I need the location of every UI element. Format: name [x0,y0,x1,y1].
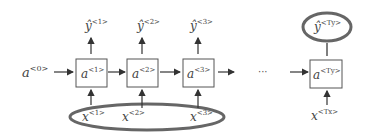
output-yTy: ŷ<Ty> [313,19,341,34]
output-y1: ŷ<1> [84,18,108,33]
ellipsis: ··· [258,66,268,77]
input-x1: x<1> [82,109,105,124]
input-x2: x<2> [122,109,145,124]
label-a0: a<0> [22,64,48,80]
output-y2: ŷ<2> [136,18,160,33]
rnn-diagram: a<0> a<1> a<2> a<3> ··· a<Ty> ŷ<1> ŷ<2> … [0,0,369,136]
highlight-output-ellipse [303,13,351,41]
output-y3: ŷ<3> [189,18,213,33]
input-xTx: x<Tx> [311,108,338,123]
input-x3: x<3> [190,109,213,124]
highlight-inputs-ellipse [70,104,224,130]
